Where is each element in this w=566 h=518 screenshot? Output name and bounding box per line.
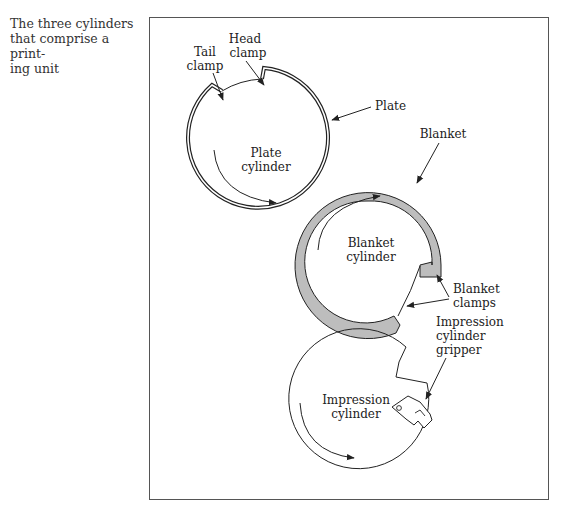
svg-text:clamp: clamp — [187, 59, 224, 73]
svg-text:Impression: Impression — [436, 315, 504, 329]
svg-text:cylinder: cylinder — [331, 407, 381, 421]
blanket-cylinder — [295, 193, 441, 339]
svg-text:Plate: Plate — [375, 99, 406, 113]
svg-text:Tail: Tail — [194, 45, 216, 59]
label-impression-cylinder: Impression cylinder — [322, 393, 390, 421]
svg-text:clamps: clamps — [453, 296, 496, 310]
label-blanket-cylinder: Blanket cylinder — [346, 236, 396, 264]
gripper-icon — [392, 396, 432, 428]
plate-cylinder — [188, 68, 328, 208]
label-blanket: Blanket — [417, 127, 467, 183]
svg-text:cylinder: cylinder — [346, 250, 396, 264]
label-plate-cylinder: Plate cylinder — [241, 146, 291, 174]
label-blanket-clamps: Blanket clamps — [407, 275, 500, 310]
label-plate: Plate — [332, 99, 406, 120]
svg-text:Blanket: Blanket — [348, 236, 395, 250]
svg-text:clamp: clamp — [230, 46, 267, 60]
svg-text:cylinder: cylinder — [241, 160, 291, 174]
svg-text:Blanket: Blanket — [420, 127, 467, 141]
svg-text:Head: Head — [229, 32, 262, 46]
svg-text:Impression: Impression — [322, 393, 390, 407]
label-impression-cylinder-gripper: Impression cylinder gripper — [426, 315, 504, 399]
svg-text:Plate: Plate — [251, 146, 282, 160]
svg-text:gripper: gripper — [436, 343, 482, 357]
svg-text:Blanket: Blanket — [453, 282, 500, 296]
svg-text:cylinder: cylinder — [436, 329, 486, 343]
printing-unit-diagram: Tail clamp Head clamp Plate Plate cylind… — [0, 0, 566, 518]
